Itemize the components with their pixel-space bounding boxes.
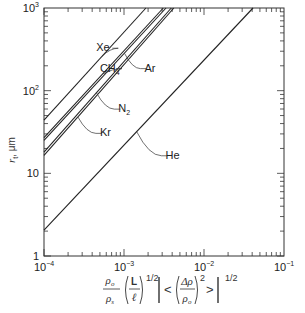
x-label-L: L	[131, 276, 137, 287]
y-tick-label: 10	[27, 167, 39, 179]
x-label-delta-rho: Δρ	[180, 275, 193, 287]
paren-left	[126, 276, 129, 304]
paren-left-2	[177, 276, 180, 304]
svg-text:ρs: ρs	[105, 292, 114, 306]
leader-line	[78, 117, 96, 133]
y-label-unit: , μm	[6, 137, 17, 157]
x-label-gt: >	[206, 282, 214, 297]
series-label-he: He	[165, 149, 179, 161]
chart: 10−410−310−210−1 110102103 XeCH4ArN2KrHe…	[0, 0, 305, 313]
svg-text:ρo: ρo	[105, 274, 115, 288]
series-line-xe	[44, 8, 146, 120]
x-axis-label: ρo ρs L ℓ 1/2 < Δρ ρo 2 > 1/2	[103, 273, 238, 306]
y-axis-label: rt, μm	[5, 137, 19, 163]
x-label-sq: 2	[200, 273, 205, 283]
y-tick-label: 103	[23, 1, 39, 14]
series-label-kr: Kr	[100, 126, 111, 138]
paren-right-2	[195, 276, 198, 304]
y-tick-label: 1	[33, 250, 39, 262]
svg-text:ρo: ρo	[182, 292, 192, 306]
series-label-ar: Ar	[144, 62, 155, 74]
x-label-half-1: 1/2	[146, 273, 159, 283]
plot-frame	[44, 8, 284, 256]
y-tick-label: 102	[23, 84, 39, 97]
x-label-rho-o-sub: o	[111, 280, 115, 288]
x-ticks: 10−410−310−210−1	[34, 8, 294, 273]
x-label-ell: ℓ	[132, 291, 137, 303]
series-label-n2: N2	[118, 102, 130, 116]
paren-right	[140, 276, 143, 304]
x-tick-label: 10−2	[194, 260, 214, 273]
leader-line	[96, 93, 114, 109]
x-label-lt: <	[164, 282, 172, 297]
series-label-xe: Xe	[96, 41, 109, 53]
x-label-rho-o2-sub: o	[188, 298, 192, 306]
series-label-ch4: CH4	[100, 62, 120, 76]
x-tick-label: 10−1	[274, 260, 294, 273]
x-label-rho-s-sub: s	[111, 298, 114, 306]
leader-line	[137, 132, 162, 156]
x-tick-label: 10−3	[114, 260, 134, 273]
x-label-half-2: 1/2	[225, 273, 238, 283]
svg-text:rt, μm: rt, μm	[5, 137, 19, 163]
series-lines	[44, 8, 253, 230]
plot-border	[44, 8, 284, 256]
